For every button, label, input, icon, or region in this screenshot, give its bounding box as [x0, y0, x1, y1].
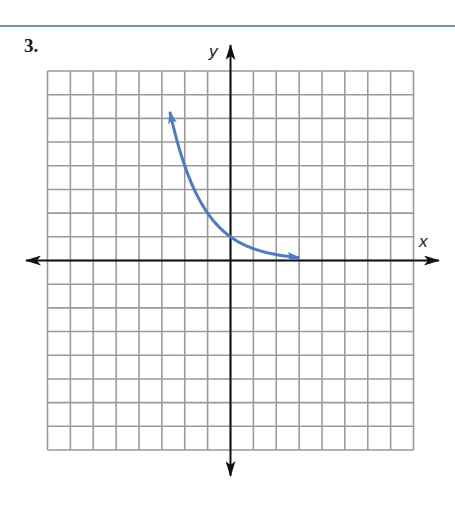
exponential-curve — [170, 112, 299, 258]
coordinate-grid — [0, 0, 455, 506]
